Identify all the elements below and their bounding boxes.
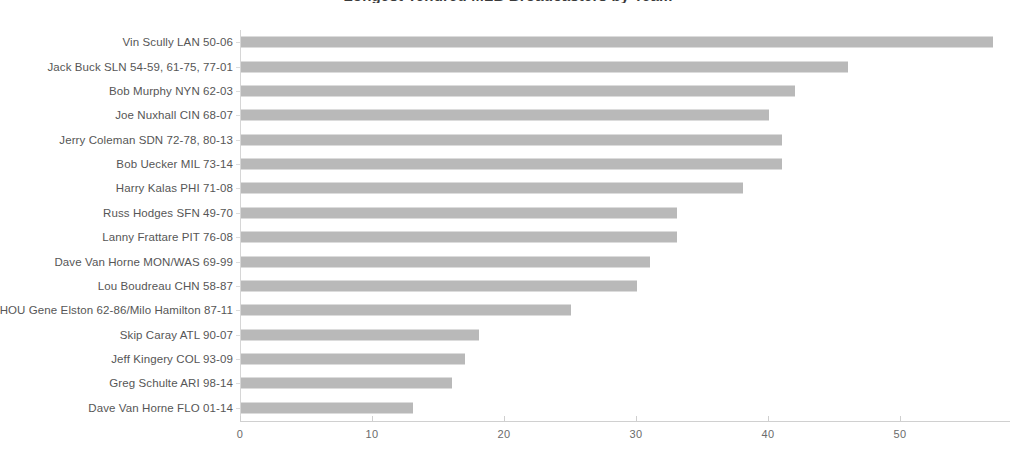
bar-category-label: Russ Hodges SFN 49-70 <box>103 206 233 219</box>
x-axis-tick-mark <box>240 416 241 421</box>
y-axis-tick-mark <box>236 310 240 311</box>
y-axis-tick-mark <box>236 91 240 92</box>
y-axis-tick-mark <box>236 213 240 214</box>
bar <box>241 134 782 145</box>
bar-category-label: Bob Uecker MIL 73-14 <box>116 158 233 171</box>
y-axis-tick-mark <box>236 286 240 287</box>
y-axis-tick-mark <box>236 140 240 141</box>
bar-row: Bob Uecker MIL 73-14 <box>240 152 1016 176</box>
bar-row: Lanny Frattare PIT 76-08 <box>240 225 1016 249</box>
y-axis-tick-mark <box>236 115 240 116</box>
bar-row: Bob Murphy NYN 62-03 <box>240 79 1016 103</box>
bar <box>241 110 769 121</box>
x-axis-line <box>240 421 1010 422</box>
bar <box>241 256 650 267</box>
bar-category-label: Skip Caray ATL 90-07 <box>120 328 233 341</box>
y-axis-tick-mark <box>236 237 240 238</box>
x-axis-tick-mark <box>636 416 637 421</box>
x-axis-tick-mark <box>900 416 901 421</box>
bar <box>241 159 782 170</box>
bar-category-label: Greg Schulte ARI 98-14 <box>109 377 233 390</box>
bar-category-label: Joe Nuxhall CIN 68-07 <box>115 109 233 122</box>
bar-category-label: Harry Kalas PHI 71-08 <box>116 182 233 195</box>
bar-row: Vin Scully LAN 50-06 <box>240 30 1016 54</box>
bar-row: Joe Nuxhall CIN 68-07 <box>240 103 1016 127</box>
bar <box>241 37 993 48</box>
bar-row: Jeff Kingery COL 93-09 <box>240 347 1016 371</box>
y-axis-tick-mark <box>236 42 240 43</box>
y-axis-tick-mark <box>236 359 240 360</box>
y-axis-tick-mark <box>236 67 240 68</box>
y-axis-tick-mark <box>236 408 240 409</box>
y-axis-tick-mark <box>236 262 240 263</box>
x-axis-tick-label: 40 <box>762 428 775 440</box>
bar-row: Dave Van Horne MON/WAS 69-99 <box>240 249 1016 273</box>
y-axis-tick-mark <box>236 188 240 189</box>
bar-row: HOU Gene Elston 62-86/Milo Hamilton 87-1… <box>240 298 1016 322</box>
bar-category-label: Lou Boudreau CHN 58-87 <box>98 279 233 292</box>
x-axis-tick-label: 10 <box>366 428 379 440</box>
chart-title: Longest Tenured MLB Broadcasters by Team <box>0 0 1016 3</box>
bar-category-label: Lanny Frattare PIT 76-08 <box>102 231 233 244</box>
bar <box>241 354 465 365</box>
bar <box>241 183 743 194</box>
bar <box>241 280 637 291</box>
plot-area: Vin Scully LAN 50-06Jack Buck SLN 54-59,… <box>240 30 1016 420</box>
bar <box>241 329 479 340</box>
bar <box>241 61 848 72</box>
bar <box>241 402 413 413</box>
x-axis-tick-label: 20 <box>498 428 511 440</box>
bar-category-label: Jeff Kingery COL 93-09 <box>111 353 233 366</box>
bar-category-label: HOU Gene Elston 62-86/Milo Hamilton 87-1… <box>0 304 233 317</box>
y-axis-tick-mark <box>236 335 240 336</box>
bar-row: Jack Buck SLN 54-59, 61-75, 77-01 <box>240 54 1016 78</box>
bar-row: Russ Hodges SFN 49-70 <box>240 201 1016 225</box>
bar <box>241 85 795 96</box>
x-axis-tick-label: 50 <box>894 428 907 440</box>
x-axis-tick-mark <box>504 416 505 421</box>
bar <box>241 378 452 389</box>
bar-category-label: Jack Buck SLN 54-59, 61-75, 77-01 <box>48 60 234 73</box>
bar-row: Skip Caray ATL 90-07 <box>240 323 1016 347</box>
x-axis-tick-label: 30 <box>630 428 643 440</box>
bar-chart: Longest Tenured MLB Broadcasters by Team… <box>0 0 1016 456</box>
bar-category-label: Bob Murphy NYN 62-03 <box>109 84 233 97</box>
x-axis-tick-mark <box>768 416 769 421</box>
x-axis-tick-mark <box>372 416 373 421</box>
bar-row: Greg Schulte ARI 98-14 <box>240 371 1016 395</box>
bar-row: Jerry Coleman SDN 72-78, 80-13 <box>240 128 1016 152</box>
x-axis-tick-label: 0 <box>237 428 243 440</box>
bar-row: Harry Kalas PHI 71-08 <box>240 176 1016 200</box>
y-axis-tick-mark <box>236 164 240 165</box>
bar-category-label: Jerry Coleman SDN 72-78, 80-13 <box>59 133 233 146</box>
y-axis-tick-mark <box>236 383 240 384</box>
bar-category-label: Vin Scully LAN 50-06 <box>123 36 233 49</box>
bar <box>241 207 677 218</box>
bar-category-label: Dave Van Horne FLO 01-14 <box>88 401 233 414</box>
bar-category-label: Dave Van Horne MON/WAS 69-99 <box>54 255 233 268</box>
bar <box>241 305 571 316</box>
bar-row: Lou Boudreau CHN 58-87 <box>240 274 1016 298</box>
bar <box>241 232 677 243</box>
